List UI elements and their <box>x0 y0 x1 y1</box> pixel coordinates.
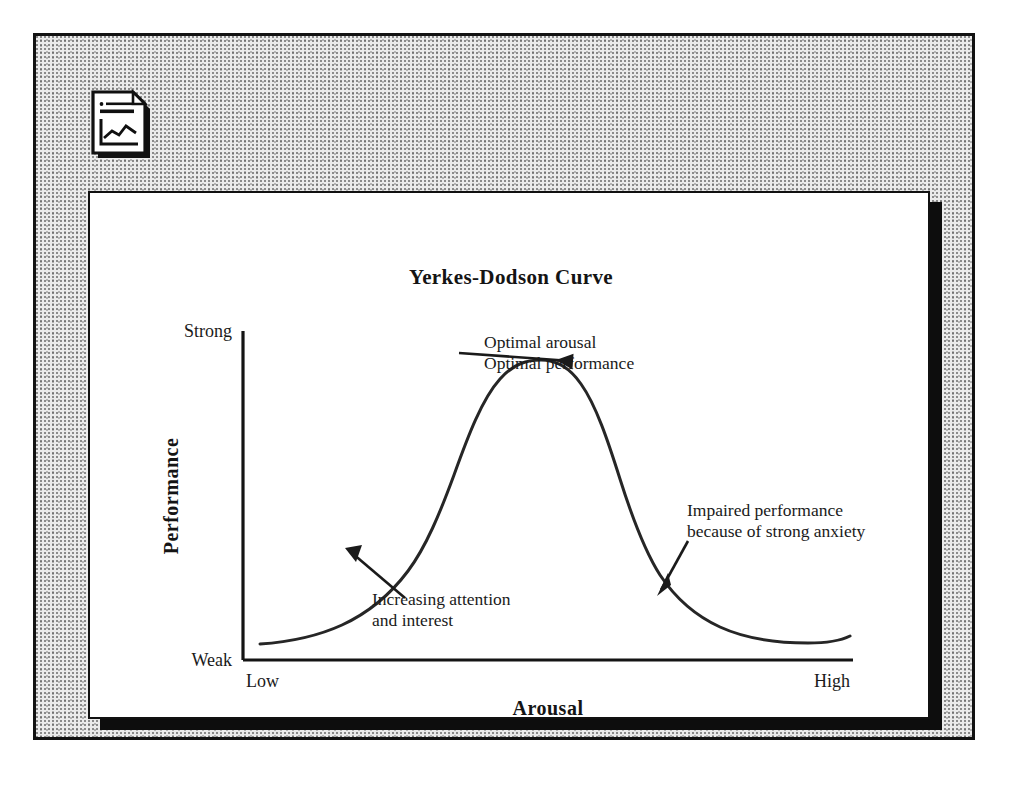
annotation-optimal-arousal: Optimal arousal Optimal performance <box>459 332 634 373</box>
annotation-impaired-line2: because of strong anxiety <box>687 521 866 541</box>
yerkes-dodson-plot: Strong Weak Low High Arousal Performance… <box>90 193 930 719</box>
annotation-increasing-line1: Increasing attention <box>372 589 511 609</box>
scanned-page: Yerkes-Dodson Curve Strong Weak Low High… <box>0 0 1014 796</box>
document-chart-icon <box>88 88 154 162</box>
y-tick-weak: Weak <box>191 650 232 670</box>
slide-frame: Yerkes-Dodson Curve Strong Weak Low High… <box>33 33 975 740</box>
annotation-impaired-line1: Impaired performance <box>687 500 843 520</box>
x-tick-low: Low <box>246 671 279 691</box>
annotation-optimal-line2: Optimal performance <box>484 353 634 373</box>
annotation-increasing-attention: Increasing attention and interest <box>345 545 511 630</box>
y-axis-label: Performance <box>160 438 182 555</box>
y-tick-strong: Strong <box>184 321 232 341</box>
annotation-impaired-performance: Impaired performance because of strong a… <box>657 500 866 596</box>
annotation-optimal-line1: Optimal arousal <box>484 332 596 352</box>
chart-card: Yerkes-Dodson Curve Strong Weak Low High… <box>88 191 930 719</box>
annotation-increasing-line2: and interest <box>372 610 453 630</box>
x-axis-label: Arousal <box>513 697 584 719</box>
x-tick-high: High <box>814 671 850 691</box>
